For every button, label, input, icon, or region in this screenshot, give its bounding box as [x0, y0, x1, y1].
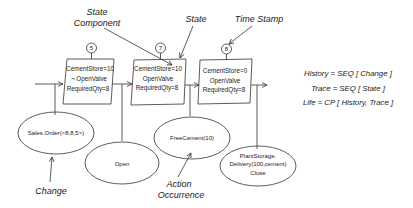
timestamp-8: 8 [222, 44, 232, 60]
formulas: History = SEQ [ Change ] Trace = SEQ [ S… [303, 69, 394, 107]
label-action-occurrence: Action Occurrence [158, 179, 205, 200]
arrow-action-occurrence [178, 153, 191, 177]
arrow-time-stamp [229, 26, 252, 44]
timestamp-5: 5 [87, 43, 97, 59]
svg-text:CementStore=0: CementStore=0 [203, 67, 248, 74]
svg-text:CementStore=10: CementStore=10 [134, 65, 182, 72]
svg-text:OpenValve: OpenValve [143, 75, 174, 83]
svg-text:RequiredQty=8: RequiredQty=8 [136, 84, 179, 92]
change-ellipse-free-cement: FreeCement(10) [154, 117, 230, 159]
svg-text:State: State [86, 7, 107, 17]
svg-text:7: 7 [159, 45, 163, 51]
svg-text:FreeCement(10): FreeCement(10) [170, 135, 214, 141]
life-history-diagram: State Component State Time Stamp 5 7 8 C… [0, 0, 413, 208]
svg-text:Open: Open [115, 161, 130, 167]
svg-text:Component: Component [74, 18, 121, 28]
arrow-state [180, 26, 193, 58]
svg-text:Delivery(100,cement): Delivery(100,cement) [229, 161, 286, 167]
formula-life: Life = CP [ History, Trace ] [303, 98, 394, 107]
svg-text:CementStore=10: CementStore=10 [66, 65, 114, 72]
svg-text:PlantStorage.: PlantStorage. [240, 153, 277, 159]
svg-text:RequiredQty=8: RequiredQty=8 [203, 86, 246, 94]
label-time-stamp: Time Stamp [235, 14, 283, 24]
formula-trace: Trace = SEQ [ State ] [311, 84, 386, 93]
arrow-change [50, 157, 52, 182]
svg-text:5: 5 [90, 45, 94, 51]
svg-text:Occurrence: Occurrence [158, 190, 205, 200]
svg-text:8: 8 [225, 46, 229, 52]
label-state-component: State Component [74, 7, 121, 28]
label-change: Change [35, 186, 67, 196]
state-box-7: CementStore=10 OpenValve RequiredQty=8 [131, 59, 186, 105]
svg-text:OpenValve: OpenValve [210, 77, 241, 85]
svg-text:¬ OpenValve: ¬ OpenValve [71, 75, 108, 83]
state-box-5: CementStore=10 ¬ OpenValve RequiredQty=8 [63, 59, 114, 104]
svg-text:Sales.Order(<8,8,5>): Sales.Order(<8,8,5>) [28, 130, 84, 136]
state-box-8: CementStore=0 OpenValve RequiredQty=8 [198, 59, 252, 104]
change-ellipse-delivery: PlantStorage. Delivery(100,cement) Close [220, 146, 296, 186]
formula-history: History = SEQ [ Change ] [304, 69, 393, 78]
label-state: State [185, 14, 206, 24]
svg-text:Close: Close [250, 170, 266, 176]
svg-text:Action: Action [165, 179, 191, 189]
svg-text:RequiredQty=8: RequiredQty=8 [67, 85, 110, 93]
change-ellipse-sales-order: Sales.Order(<8,8,5>) [18, 112, 94, 154]
change-ellipse-open: Open [85, 142, 159, 184]
